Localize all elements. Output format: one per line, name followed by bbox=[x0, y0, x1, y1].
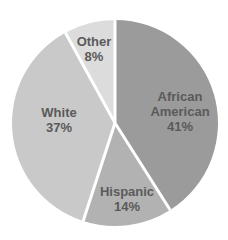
label-hispanic-name: Hispanic bbox=[100, 184, 154, 199]
label-african-american: African American 41% bbox=[150, 89, 209, 134]
label-white-pct: 37% bbox=[41, 120, 76, 135]
label-white: White 37% bbox=[41, 105, 76, 135]
label-african-american-line2: American bbox=[150, 104, 209, 119]
label-african-american-pct: 41% bbox=[150, 119, 209, 134]
label-hispanic-pct: 14% bbox=[100, 199, 154, 214]
label-other-pct: 8% bbox=[77, 49, 112, 64]
label-african-american-line1: African bbox=[150, 89, 209, 104]
label-white-name: White bbox=[41, 105, 76, 120]
label-other-name: Other bbox=[77, 34, 112, 49]
label-hispanic: Hispanic 14% bbox=[100, 184, 154, 214]
label-other: Other 8% bbox=[77, 34, 112, 64]
